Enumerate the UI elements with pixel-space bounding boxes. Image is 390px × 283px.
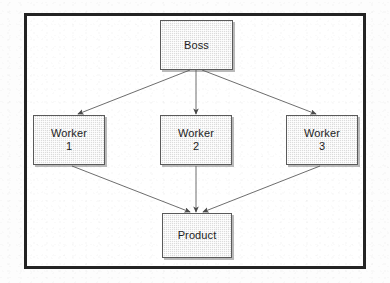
node-worker-2-label: Worker [178, 127, 214, 140]
node-worker-1-sublabel: 1 [66, 140, 72, 153]
node-worker-1[interactable]: Worker 1 [33, 115, 105, 165]
node-boss-label: Boss [184, 39, 209, 52]
edge-boss-to-worker3 [202, 70, 316, 114]
node-worker-3-label: Worker [304, 127, 340, 140]
node-worker-2-sublabel: 2 [193, 140, 199, 153]
edge-worker3-to-product [203, 166, 320, 212]
diagram-canvas: Boss Worker 1 Worker 2 Worker 3 Product [0, 0, 390, 283]
edge-boss-to-worker1 [78, 70, 190, 114]
node-worker-2[interactable]: Worker 2 [160, 115, 232, 165]
node-worker-1-label: Worker [51, 127, 87, 140]
node-product-label: Product [178, 229, 217, 242]
node-product[interactable]: Product [162, 213, 232, 258]
node-boss[interactable]: Boss [160, 20, 233, 70]
node-worker-3-sublabel: 3 [319, 140, 325, 153]
edge-worker1-to-product [72, 166, 190, 212]
node-worker-3[interactable]: Worker 3 [286, 115, 358, 165]
